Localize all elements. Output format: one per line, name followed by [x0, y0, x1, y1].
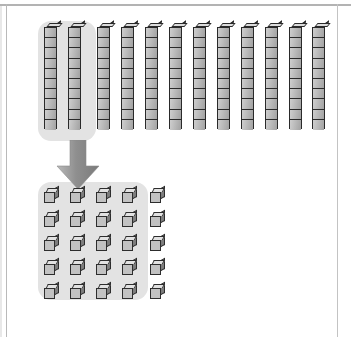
unit-cube-top-face [152, 188, 165, 192]
frame-top-border [0, 4, 351, 6]
unit-cube-top-face [46, 260, 59, 264]
tens-rod-segment [170, 79, 181, 89]
unit-cube-grouped [122, 212, 138, 228]
tens-rod-segment [69, 89, 80, 99]
unit-cube-grouped [122, 260, 138, 276]
tens-rod-segment [266, 38, 277, 48]
tens-rod-segment [194, 110, 205, 120]
tens-rod-segment [218, 120, 229, 130]
tens-rod-segment [242, 28, 253, 38]
unit-cube-grouped [70, 284, 86, 300]
tens-rod-segment [170, 28, 181, 38]
tens-rod-segment [98, 38, 109, 48]
tens-rod-segment [45, 79, 56, 89]
unit-cube-front-face [44, 288, 55, 299]
unit-cube-grouped [44, 188, 60, 204]
tens-rod-segment [98, 89, 109, 99]
unit-cube-grouped [44, 260, 60, 276]
unit-cube-front-face [44, 240, 55, 251]
tens-rod-segment [69, 120, 80, 130]
tens-rod-segment [194, 79, 205, 89]
tens-rod-segment [146, 99, 157, 109]
unit-cube-top-face [124, 284, 137, 288]
tens-rod-segment [170, 48, 181, 58]
unit-cube-front-face [96, 288, 107, 299]
tens-rod-segment [69, 38, 80, 48]
unit-cube-top-face [72, 212, 85, 216]
unit-cube-top-face [72, 260, 85, 264]
tens-rod-segment [266, 59, 277, 69]
unit-cube-front-face [70, 288, 81, 299]
tens-rod-segment [218, 79, 229, 89]
tens-rod-segment [218, 38, 229, 48]
unit-cube-front-face [96, 216, 107, 227]
unit-cube-top-face [72, 236, 85, 240]
tens-rod-top-face [243, 23, 259, 27]
tens-rod-segment [69, 79, 80, 89]
tens-rod-segment [218, 110, 229, 120]
tens-rod-segment [122, 69, 133, 79]
tens-rod-segment [194, 89, 205, 99]
tens-rod-segment [218, 99, 229, 109]
tens-rod-segment [313, 89, 324, 99]
unit-cube-top-face [152, 236, 165, 240]
tens-rod-segment [194, 59, 205, 69]
unit-cube-top-face [124, 236, 137, 240]
unit-cube-grouped [122, 284, 138, 300]
tens-rod-segment [290, 99, 301, 109]
tens-rod-segment [170, 38, 181, 48]
frame-outer-left-border [0, 6, 2, 337]
tens-rod-segment [242, 69, 253, 79]
unit-cube-top-face [46, 236, 59, 240]
tens-rod-segment [122, 38, 133, 48]
tens-rod-segment [266, 110, 277, 120]
unit-cube-front-face [150, 240, 161, 251]
unit-cube-top-face [124, 260, 137, 264]
tens-rod-segment [122, 59, 133, 69]
tens-rod-segment [69, 59, 80, 69]
tens-rod-segment [170, 99, 181, 109]
unit-cube-grouped [70, 188, 86, 204]
tens-rod-segment [45, 69, 56, 79]
tens-rod-segment [194, 28, 205, 38]
tens-rod-segment [313, 110, 324, 120]
tens-rod-segment [266, 89, 277, 99]
unit-cube-grouped [96, 188, 112, 204]
unit-cube-top-face [72, 188, 85, 192]
tens-rod-segment [146, 59, 157, 69]
unit-cube-front-face [44, 216, 55, 227]
unit-cube-loose [150, 188, 166, 204]
tens-rod-segment [45, 110, 56, 120]
tens-rod-segment [146, 110, 157, 120]
tens-rod-segment [194, 48, 205, 58]
tens-rod-segment [45, 28, 56, 38]
tens-rod-segment [98, 99, 109, 109]
tens-rod-segment [290, 28, 301, 38]
frame-right-border [337, 4, 338, 337]
tens-rod-segment [266, 28, 277, 38]
tens-rod-segment [98, 59, 109, 69]
unit-cube-top-face [152, 212, 165, 216]
tens-rod-segment [290, 120, 301, 130]
tens-rod-segment [45, 59, 56, 69]
unit-cube-top-face [98, 212, 111, 216]
unit-cube-front-face [122, 288, 133, 299]
unit-cube-front-face [70, 192, 81, 203]
tens-rod-segment [313, 99, 324, 109]
tens-rod-segment [313, 48, 324, 58]
unit-cube-front-face [70, 264, 81, 275]
tens-rod-segment [218, 89, 229, 99]
unit-cube-grouped [122, 236, 138, 252]
unit-cube-top-face [124, 212, 137, 216]
unit-cube-top-face [72, 284, 85, 288]
tens-rod-segment [194, 120, 205, 130]
tens-rod-segment [266, 69, 277, 79]
tens-rod-segment [146, 38, 157, 48]
tens-rod-segment [290, 89, 301, 99]
unit-cube-front-face [150, 288, 161, 299]
unit-cube-front-face [150, 264, 161, 275]
tens-rod-segment [266, 99, 277, 109]
unit-cube-grouped [96, 284, 112, 300]
tens-rod-top-face [314, 23, 330, 27]
unit-cube-front-face [96, 264, 107, 275]
